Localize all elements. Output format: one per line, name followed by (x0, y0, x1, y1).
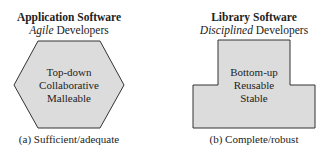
panel-b-heading: Library Software (190, 11, 318, 24)
panel-a-title: Application Software Agile Developers (4, 11, 134, 37)
caption-a: (a) Sufficient/adequate (4, 133, 134, 146)
panel-a-heading: Application Software (4, 11, 134, 24)
caption-b: (b) Complete/robust (190, 133, 318, 146)
panel-a-subtitle: Agile Developers (4, 24, 134, 37)
panel-b-subtitle: Disciplined Developers (190, 24, 318, 37)
t-shape-label: Bottom-up Reusable Stable (204, 66, 304, 105)
hexagon-label: Top-down Collaborative Malleable (19, 66, 119, 105)
panel-b-title: Library Software Disciplined Developers (190, 11, 318, 37)
